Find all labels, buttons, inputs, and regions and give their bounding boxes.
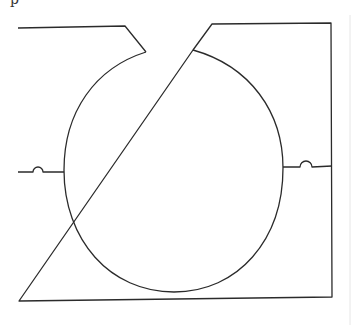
- frame-outline: [18, 23, 332, 301]
- oval-body: [64, 50, 283, 292]
- right-connector: [283, 161, 332, 167]
- diagram-canvas: [0, 0, 352, 325]
- left-connector: [18, 167, 64, 172]
